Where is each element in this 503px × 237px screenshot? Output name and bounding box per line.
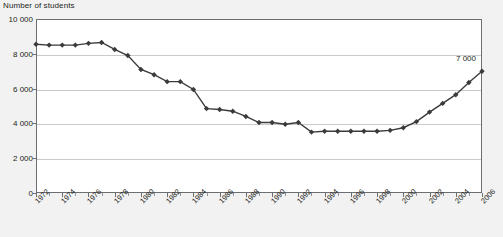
x-axis-tick-mark [377, 193, 378, 197]
x-axis-tick-mark [285, 193, 286, 196]
x-axis-tick-mark [351, 193, 352, 197]
data-point-marker [46, 42, 51, 47]
x-axis-tick-mark [298, 193, 299, 197]
data-point-marker [73, 42, 78, 47]
data-point-marker [361, 129, 366, 134]
data-point-marker [164, 79, 169, 84]
data-point-marker [283, 122, 288, 127]
x-axis-tick-mark [338, 193, 339, 196]
x-axis-tick-mark [233, 193, 234, 196]
x-axis-tick-mark [246, 193, 247, 197]
x-axis-tick-mark [128, 193, 129, 196]
x-axis-tick-mark [193, 193, 194, 197]
data-point-marker [86, 41, 91, 46]
data-point-marker [322, 129, 327, 134]
x-axis-tick-mark [469, 193, 470, 196]
x-axis-tick-mark [36, 193, 37, 197]
x-axis-tick-mark [62, 193, 63, 197]
data-point-marker [335, 129, 340, 134]
x-axis-tick-mark [259, 193, 260, 196]
x-axis-tick-mark [416, 193, 417, 196]
data-point-marker [348, 129, 353, 134]
x-axis-tick-mark [482, 193, 483, 197]
data-point-marker [243, 114, 248, 119]
line-series-number-of-students [36, 19, 482, 193]
data-point-marker [217, 107, 222, 112]
x-axis-tick-mark [102, 193, 103, 196]
data-point-marker [256, 120, 261, 125]
x-axis-tick-mark [311, 193, 312, 196]
x-axis-tick-mark [272, 193, 273, 197]
x-axis-tick-mark [456, 193, 457, 197]
x-axis-tick-mark [180, 193, 181, 196]
x-axis-tick-mark [88, 193, 89, 197]
x-axis-tick-mark [403, 193, 404, 197]
data-point-marker [99, 40, 104, 45]
data-point-marker [374, 129, 379, 134]
x-axis-tick-mark [325, 193, 326, 197]
x-axis-tick-mark [207, 193, 208, 196]
x-axis-tick-mark [390, 193, 391, 196]
data-point-marker [60, 42, 65, 47]
x-axis-tick-mark [75, 193, 76, 196]
data-point-marker [151, 72, 156, 77]
x-axis-tick-mark [141, 193, 142, 197]
x-axis-tick-mark [443, 193, 444, 196]
x-axis-tick-mark [430, 193, 431, 197]
data-point-label: 7 000 [456, 54, 476, 63]
x-axis-tick-marks [36, 193, 482, 197]
x-axis-tick-mark [115, 193, 116, 197]
data-point-marker [387, 128, 392, 133]
chart-page: Number of students 02 0004 0006 0008 000… [0, 0, 503, 237]
page-title: Number of students [3, 1, 75, 10]
y-axis-tick-marks [0, 19, 36, 193]
x-axis-tick-mark [49, 193, 50, 196]
x-axis-tick-mark [220, 193, 221, 197]
series-line [36, 42, 482, 132]
x-axis-tick-mark [154, 193, 155, 196]
data-point-marker [112, 47, 117, 52]
x-axis-tick-mark [167, 193, 168, 197]
data-point-marker [401, 125, 406, 130]
data-point-marker [269, 120, 274, 125]
data-point-marker [230, 109, 235, 114]
x-axis-tick-mark [364, 193, 365, 196]
